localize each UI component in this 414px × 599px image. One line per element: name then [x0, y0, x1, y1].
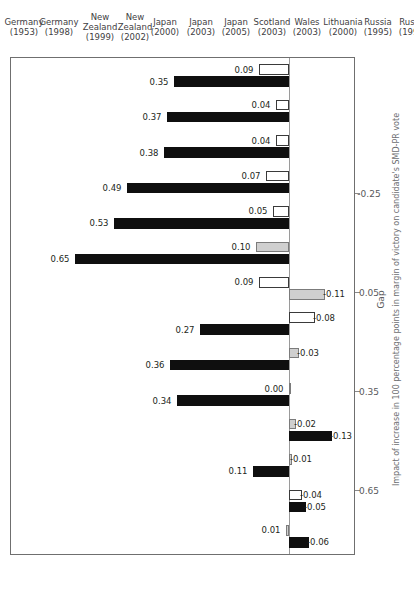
- bar-value-label: 0.09: [227, 65, 261, 75]
- bar-value-label: 0.34: [145, 396, 179, 406]
- plot-area: -0.060.01-0.05-0.040.11-0.01-0.13-0.020.…: [10, 57, 355, 555]
- bar-group: -0.13-0.02: [11, 412, 356, 447]
- bar-personal: [167, 112, 289, 123]
- bar-value-label: -0.08: [307, 313, 341, 323]
- bar-group: 0.36-0.03: [11, 341, 356, 376]
- bar-personal: [164, 147, 289, 158]
- bar-personal: [200, 324, 289, 335]
- bar-value-label: 0.07: [234, 171, 268, 181]
- bar-group: 0.650.10: [11, 235, 356, 270]
- bar-personal: [253, 466, 289, 477]
- bar-group: -0.060.01: [11, 519, 356, 554]
- axis-title: Gap: [376, 0, 386, 599]
- bar-group: 0.370.04: [11, 93, 356, 128]
- bar-value-label: -0.04: [294, 490, 328, 500]
- bar-value-label: 0.10: [224, 242, 258, 252]
- bar-value-label: 0.04: [244, 100, 278, 110]
- bar-personal: [174, 76, 290, 87]
- bar-group: 0.530.05: [11, 200, 356, 235]
- bar-value-label: -0.01: [284, 454, 318, 464]
- bar-personal: [170, 360, 289, 371]
- bar-chart-figure: Personal Vote Strategic Vote -0.060.01-0…: [0, 0, 414, 599]
- bar-strategic: [259, 64, 289, 75]
- bar-value-label: -0.02: [288, 419, 322, 429]
- bar-personal: [75, 254, 290, 265]
- figure-caption: Impact of increase in 100 percentage poi…: [392, 0, 401, 599]
- bar-value-label: 0.00: [257, 384, 291, 394]
- bar-group: 0.27-0.08: [11, 306, 356, 341]
- bar-value-label: 0.04: [244, 136, 278, 146]
- bar-strategic: [266, 171, 289, 182]
- bar-value-label: 0.11: [221, 466, 255, 476]
- category-axis: Germany(1953)Germany(1998)NewZealand(199…: [10, 1, 355, 53]
- bar-value-label: -0.13: [324, 431, 358, 441]
- bar-value-label: 0.27: [168, 325, 202, 335]
- bar-group: 0.350.09: [11, 58, 356, 93]
- bar-value-label: 0.36: [138, 360, 172, 370]
- bar-value-label: 0.65: [43, 254, 77, 264]
- bar-group: 0.380.04: [11, 129, 356, 164]
- bar-value-label: 0.35: [142, 77, 176, 87]
- bar-value-label: 0.37: [135, 112, 169, 122]
- bar-strategic: [256, 242, 289, 253]
- bar-value-label: 0.01: [254, 525, 288, 535]
- bar-group: -0.110.09: [11, 271, 356, 306]
- bar-value-label: 0.05: [241, 206, 275, 216]
- rotated-figure-container: Personal Vote Strategic Vote -0.060.01-0…: [0, 0, 414, 599]
- bar-group: 0.11-0.01: [11, 448, 356, 483]
- bar-group: 0.340.00: [11, 377, 356, 412]
- bar-personal: [127, 183, 289, 194]
- bar-personal: [177, 395, 289, 406]
- bar-value-label: -0.03: [291, 348, 325, 358]
- bar-value-label: 0.49: [95, 183, 129, 193]
- bar-personal: [114, 218, 289, 229]
- bar-value-label: 0.09: [227, 277, 261, 287]
- bar-value-label: -0.11: [317, 289, 351, 299]
- bar-value-label: 0.38: [132, 148, 166, 158]
- bar-strategic: [259, 277, 289, 288]
- bar-group: -0.05-0.04: [11, 483, 356, 518]
- bar-value-label: -0.06: [301, 537, 335, 547]
- bar-value-label: -0.05: [298, 502, 332, 512]
- bar-group: 0.490.07: [11, 164, 356, 199]
- bar-value-label: 0.53: [82, 218, 116, 228]
